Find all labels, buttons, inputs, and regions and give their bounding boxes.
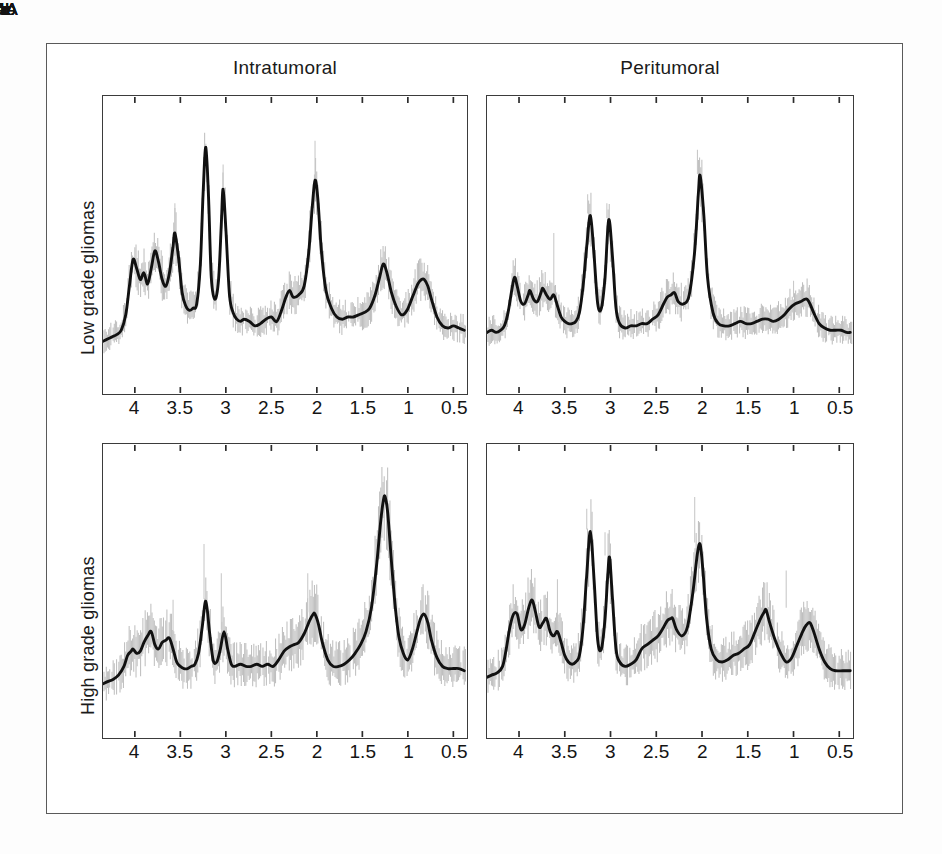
peak-label-naa-low-peri: NAA: [0, 0, 17, 20]
x-tick-label-2p5-low-intra: 2.5: [258, 397, 284, 419]
x-tick-label-2-high-peri: 2: [697, 741, 708, 763]
noise-band-high-peri: [488, 499, 851, 693]
peak-label-cr-high-intra: Cr: [0, 0, 9, 20]
x-tick-label-3p5-high-peri: 3.5: [551, 741, 577, 763]
x-tick-label-3p5-low-peri: 3.5: [551, 397, 577, 419]
spectrum-plot-low-intra: [103, 96, 467, 394]
column-title-peritumoral: Peritumoral: [486, 57, 854, 79]
x-tick-label-2-low-peri: 2: [697, 397, 708, 419]
peak-label-cr-high-peri: Cr: [0, 0, 9, 20]
x-tick-label-1-low-peri: 1: [789, 397, 800, 419]
peak-label-cr-low-intra: Cr: [0, 0, 9, 20]
peak-label-cho-low-intra: Cho: [0, 0, 16, 20]
peak-label-ll-low-intra: LL: [0, 0, 9, 20]
x-tick-label-1-high-peri: 1: [789, 741, 800, 763]
x-tick-label-0p5-high-intra: 0.5: [441, 741, 467, 763]
peak-label-naa-high-intra: NAA: [0, 0, 17, 20]
x-tick-label-0p5-low-peri: 0.5: [827, 397, 853, 419]
peak-label-naa-low-intra: NAA: [0, 0, 17, 20]
x-tick-label-1p5-high-peri: 1.5: [735, 741, 761, 763]
x-tick-label-0p5-low-intra: 0.5: [441, 397, 467, 419]
peak-label-ml-high-intra: ml: [0, 0, 9, 20]
peak-label-ml-low-intra: ml: [0, 0, 9, 20]
peak-label-ll-high-peri: LL: [0, 0, 9, 20]
column-title-intratumoral: Intratumoral: [102, 57, 468, 79]
x-tick-label-4-high-intra: 4: [129, 741, 140, 763]
x-tick-label-4-low-peri: 4: [513, 397, 524, 419]
x-axis-tick-labels-low-peri: 43.532.521.510.5: [486, 397, 854, 423]
row-title-low-grade-gliomas: Low grade gliomas: [78, 201, 99, 355]
panel-high-grade-peritumoral: [486, 443, 854, 739]
x-tick-label-4-high-peri: 4: [513, 741, 524, 763]
x-tick-label-3p5-high-intra: 3.5: [167, 741, 193, 763]
noise-band-low-peri: [488, 158, 852, 346]
peak-label-cho-low-peri: Cho: [0, 0, 16, 20]
x-tick-label-1-high-intra: 1: [403, 741, 414, 763]
spectrum-plot-high-peri: [487, 444, 853, 738]
x-tick-label-3-high-intra: 3: [220, 741, 231, 763]
x-axis-ticks-low-intra: [135, 97, 454, 393]
x-tick-label-1p5-low-peri: 1.5: [735, 397, 761, 419]
x-axis-ticks-low-peri: [519, 97, 839, 393]
x-axis-tick-labels-high-intra: 43.532.521.510.5: [102, 741, 468, 767]
panel-high-grade-intratumoral: [102, 443, 468, 739]
x-axis-tick-labels-low-intra: 43.532.521.510.5: [102, 397, 468, 423]
peak-label-ml-low-peri: ml: [0, 0, 9, 20]
x-tick-label-1-low-intra: 1: [403, 397, 414, 419]
x-axis-ticks-high-intra: [135, 445, 454, 737]
peak-label-ll-low-peri: LL: [0, 0, 9, 20]
x-tick-label-2p5-high-peri: 2.5: [643, 741, 669, 763]
spectrum-plot-low-peri: [487, 96, 853, 394]
x-axis-ticks-high-peri: [519, 445, 839, 737]
x-axis-tick-labels-high-peri: 43.532.521.510.5: [486, 741, 854, 767]
peak-label-ml-high-peri: ml: [0, 0, 9, 20]
peak-leader-lines-high-intra: [173, 544, 308, 636]
x-tick-label-1p5-high-intra: 1.5: [350, 741, 376, 763]
x-tick-label-4-low-intra: 4: [129, 397, 140, 419]
figure-root: Intratumoral Peritumoral Low grade gliom…: [0, 0, 942, 854]
x-tick-label-3-low-intra: 3: [220, 397, 231, 419]
x-tick-label-1p5-low-intra: 1.5: [350, 397, 376, 419]
peak-label-naa-high-peri: NAA: [0, 0, 17, 20]
peak-label-cho-high-peri: Cho: [0, 0, 16, 20]
noise-band-high-intra: [104, 467, 465, 701]
spectrum-plot-high-intra: [103, 444, 467, 738]
peak-label-cr-low-peri: Cr: [0, 0, 9, 20]
x-tick-label-2p5-high-intra: 2.5: [258, 741, 284, 763]
x-tick-label-0p5-high-peri: 0.5: [827, 741, 853, 763]
x-tick-label-3p5-low-intra: 3.5: [167, 397, 193, 419]
peak-label-cho-high-intra: Cho: [0, 0, 16, 20]
x-tick-label-2-low-intra: 2: [312, 397, 323, 419]
x-tick-label-3-high-peri: 3: [605, 741, 616, 763]
row-title-high-grade-gliomas: High grade gliomas: [78, 556, 99, 715]
peak-leader-lines-low-intra: [175, 141, 315, 232]
peak-label-ll-high-intra: LL: [0, 0, 9, 20]
x-tick-label-2p5-low-peri: 2.5: [643, 397, 669, 419]
x-tick-label-3-low-peri: 3: [605, 397, 616, 419]
noise-band-low-intra: [104, 133, 465, 354]
x-tick-label-2-high-intra: 2: [312, 741, 323, 763]
panel-low-grade-intratumoral: [102, 95, 468, 395]
panel-low-grade-peritumoral: [486, 95, 854, 395]
